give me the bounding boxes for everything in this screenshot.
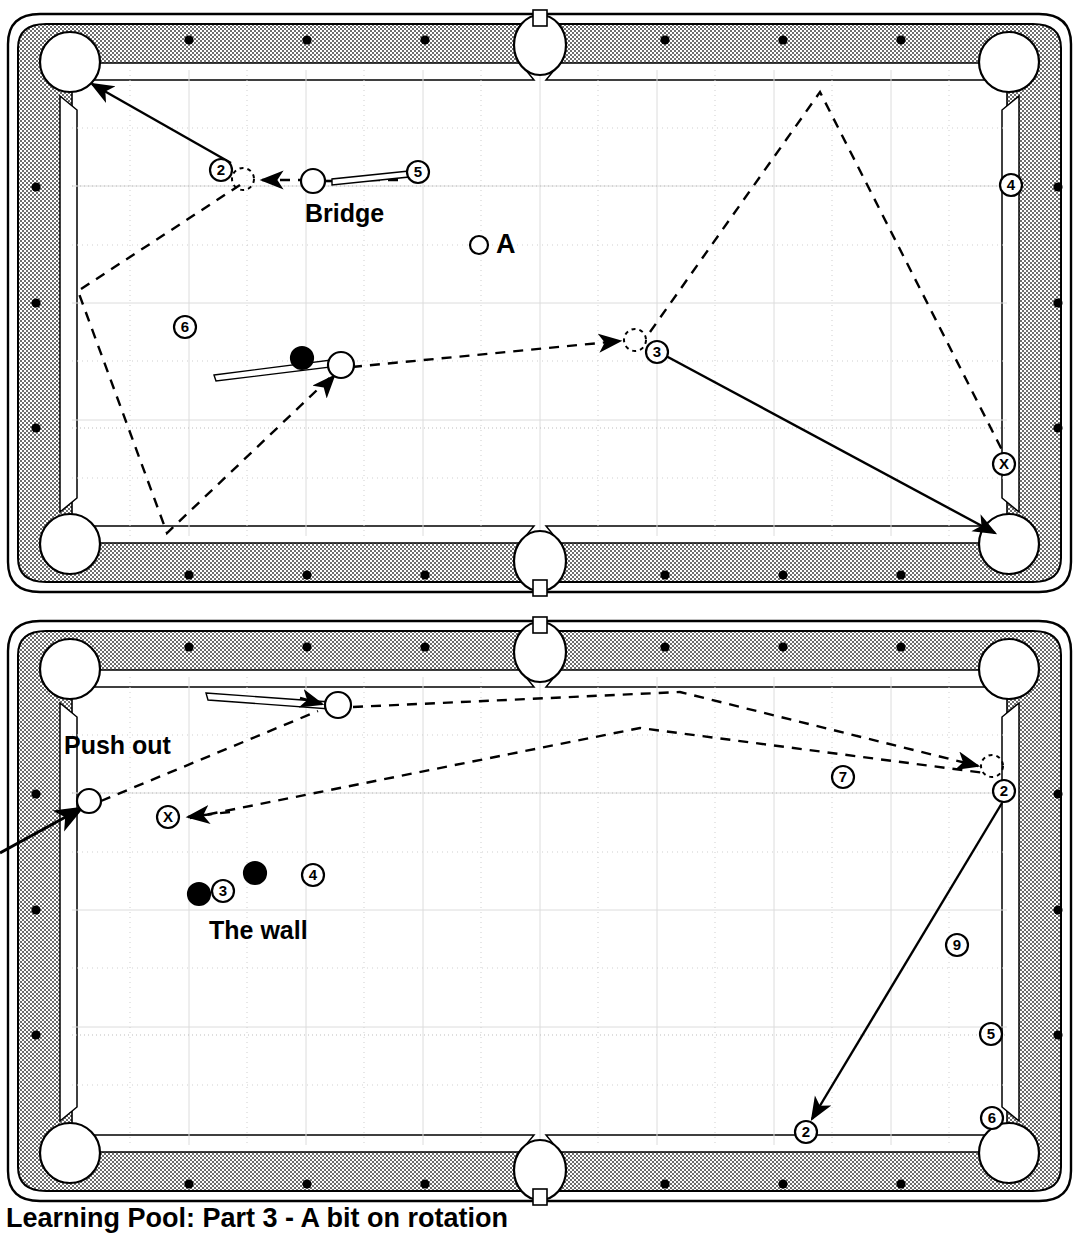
label-bridge: Bridge [305,199,384,228]
numbered-ball-label-6: 6 [988,1109,996,1126]
cue-ball-left-icon [77,789,101,813]
cue-ball-bridge-icon [301,169,325,193]
label-the-wall: The wall [209,916,308,945]
pocket-bottom-left [40,514,100,574]
pool-table-diagram-top: 2546103X [0,0,1079,605]
numbered-ball-label-3: 3 [219,882,227,899]
pocket-bottom-left-2 [40,1123,100,1183]
numbered-ball-label-X: X [163,808,173,825]
numbered-ball-label-5: 5 [987,1025,995,1042]
numbered-ball-label-9: 9 [953,936,961,953]
numbered-ball-label-5: 5 [414,163,422,180]
label-push-out: Push out [64,731,171,760]
numbered-ball-label-4: 4 [1007,176,1016,193]
pocket-top-left-2 [40,639,100,699]
top-table-svg: 2546103X [0,0,1079,605]
bottom-table-svg: X72841039562 [0,613,1079,1213]
numbered-ball-label-2: 2 [217,161,225,178]
page-bottom-caption: Learning Pool: Part 3 - A bit on rotatio… [6,1203,508,1234]
pool-table-diagram-bottom: X72841039562 [0,613,1079,1213]
numbered-ball-label-X: X [999,455,1009,472]
numbered-ball-label-10: 10 [192,888,206,902]
numbered-ball-label-2: 2 [1000,782,1008,799]
numbered-ball-label-10: 10 [295,352,309,366]
label-A: A [496,229,516,260]
numbered-ball-label-3: 3 [653,343,661,360]
numbered-ball-label-6: 6 [181,318,189,335]
pocket-top-right-2 [979,639,1039,699]
cue-ball-ten-icon [328,352,354,378]
pocket-top-left [40,32,100,92]
pocket-bottom-right [979,514,1039,574]
numbered-ball-label-8: 8 [251,864,259,881]
pocket-bottom-right-2 [979,1123,1039,1183]
numbered-ball-label-2: 2 [802,1123,810,1140]
numbered-ball-label-4: 4 [309,866,318,883]
ball-A-icon [470,236,488,254]
pocket-top-right [979,32,1039,92]
numbered-ball-label-7: 7 [839,768,847,785]
cue-ball-push-icon [325,692,351,718]
